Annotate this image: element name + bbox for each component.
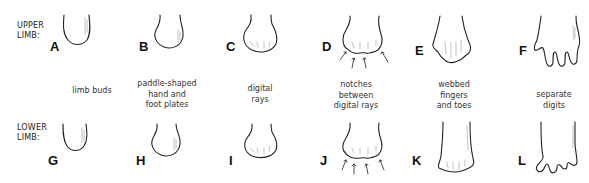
caption-separate-digits: separate digits [509, 90, 589, 111]
caption-line: digits [509, 101, 589, 112]
stage-letter-k: K [412, 153, 421, 168]
limb-bud-upper-drawing [60, 12, 94, 48]
caption-line: notches [311, 80, 401, 91]
caption-line: webbed [409, 80, 499, 91]
stage-letter-j: J [320, 153, 327, 168]
limb-bud-lower-drawing [60, 122, 90, 154]
caption-line: hand and [122, 90, 212, 101]
paddle-plate-lower-drawing [148, 122, 188, 160]
stage-letter-l: L [518, 153, 526, 168]
lower-limb-label-line1: LOWER [17, 123, 47, 133]
digital-rays-upper-drawing [240, 12, 282, 56]
caption-paddle-shaped: paddle-shaped hand and foot plates [122, 79, 212, 111]
lower-limb-label-line2: LIMB: [17, 133, 47, 143]
caption-line: between [311, 91, 401, 102]
caption-line: separate [509, 90, 589, 101]
stage-letter-e: E [415, 43, 424, 58]
stage-letter-b: B [139, 39, 148, 54]
caption-line: digital [215, 84, 305, 95]
separate-fingers-drawing [533, 14, 583, 70]
caption-line: fingers [409, 91, 499, 102]
caption-line: digital rays [311, 101, 401, 112]
stage-letter-i: I [229, 153, 233, 168]
caption-line: rays [215, 95, 305, 106]
lower-limb-label: LOWER LIMB: [17, 123, 47, 143]
digital-rays-lower-drawing [240, 122, 284, 160]
notched-plate-upper-drawing [336, 12, 392, 68]
upper-limb-label: UPPER LIMB: [17, 21, 44, 41]
stage-letter-c: C [226, 39, 235, 54]
caption-webbed: webbed fingers and toes [409, 80, 499, 112]
stage-letter-a: A [50, 39, 59, 54]
upper-limb-label-line1: UPPER [17, 21, 44, 31]
stage-letter-f: F [519, 43, 527, 58]
stage-letter-d: D [322, 39, 331, 54]
caption-line: foot plates [122, 100, 212, 111]
caption-line: paddle-shaped [122, 79, 212, 90]
paddle-plate-upper-drawing [150, 12, 190, 52]
webbed-fingers-drawing [430, 14, 474, 66]
caption-line: and toes [409, 101, 499, 112]
caption-notches: notches between digital rays [311, 80, 401, 112]
webbed-toes-drawing [435, 120, 479, 174]
stage-letter-g: G [48, 153, 58, 168]
upper-limb-label-line2: LIMB: [17, 31, 44, 41]
separate-toes-drawing [533, 120, 583, 176]
stage-letter-h: H [136, 153, 145, 168]
caption-digital-rays: digital rays [215, 84, 305, 105]
notched-plate-lower-drawing [336, 120, 392, 176]
